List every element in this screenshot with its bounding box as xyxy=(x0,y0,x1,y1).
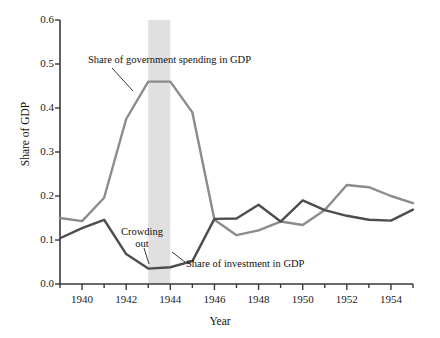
x-tick-label: 1948 xyxy=(239,293,279,305)
y-tick-label: 0.1 xyxy=(20,233,54,245)
x-tick-label: 1950 xyxy=(283,293,323,305)
x-axis-title: Year xyxy=(0,315,440,327)
y-tick-label: 0.2 xyxy=(20,189,54,201)
chart-figure: 0.00.10.20.30.40.50.6 194019421944194619… xyxy=(0,0,440,338)
government-spending-annotation: Share of government spending in GDP xyxy=(88,54,251,66)
crowding-out-annotation: Crowding out xyxy=(113,226,171,250)
y-axis-title: Share of GDP xyxy=(19,89,31,179)
x-tick-label: 1942 xyxy=(106,293,146,305)
x-tick-label: 1940 xyxy=(62,293,102,305)
x-tick-label: 1944 xyxy=(150,293,190,305)
x-tick-label: 1954 xyxy=(371,293,411,305)
x-tick-label: 1952 xyxy=(327,293,367,305)
y-tick-label: 0.0 xyxy=(20,277,54,289)
y-tick-label: 0.6 xyxy=(20,13,54,25)
government-spending-line xyxy=(60,82,413,236)
government-leader-line xyxy=(112,68,133,91)
x-tick-label: 1946 xyxy=(194,293,234,305)
y-tick-label: 0.5 xyxy=(20,57,54,69)
investment-annotation: Share of investment in GDP xyxy=(186,258,304,270)
investment-leader-line xyxy=(172,252,185,262)
chart-plot-area xyxy=(0,0,440,338)
